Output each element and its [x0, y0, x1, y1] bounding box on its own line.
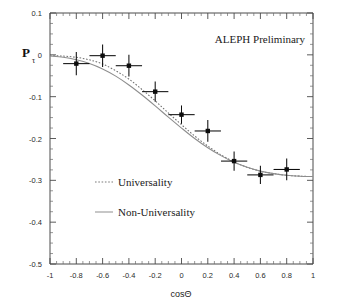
legend-label-universality: Universality	[118, 176, 173, 188]
x-tick-label: -0.4	[122, 271, 135, 280]
y-tick-label: -0.3	[29, 176, 42, 185]
y-tick-label: -0.4	[29, 218, 42, 227]
x-tick-label: 0	[179, 271, 183, 280]
x-tick-label: -0.8	[70, 271, 83, 280]
y-axis-label: P	[22, 45, 30, 60]
x-axis-label: cosΘ	[170, 289, 191, 299]
x-tick-label: -1	[47, 271, 54, 280]
chart-background	[0, 0, 340, 308]
y-tick-label: -0.5	[29, 260, 42, 269]
y-tick-label: -0.2	[29, 135, 42, 144]
legend-label-non-universality: Non-Universality	[118, 206, 195, 218]
x-tick-label: -0.6	[96, 271, 109, 280]
x-tick-label: -0.2	[149, 271, 162, 280]
y-tick-label: 0	[38, 51, 42, 60]
y-tick-label: -0.1	[29, 93, 42, 102]
x-tick-label: 0.6	[255, 271, 265, 280]
chart-title: ALEPH Preliminary	[215, 33, 306, 45]
x-tick-label: 0.8	[281, 271, 291, 280]
tau-polarization-chart: -1-0.8-0.6-0.4-0.200.20.40.60.81 0.10-0.…	[0, 0, 340, 308]
x-tick-label: 0.2	[203, 271, 213, 280]
y-tick-label: 0.1	[32, 9, 42, 18]
x-tick-label: 0.4	[229, 271, 239, 280]
x-tick-label: 1	[311, 271, 315, 280]
